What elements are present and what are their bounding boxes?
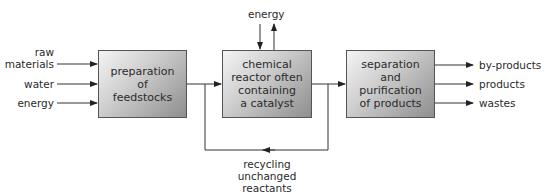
label-energy-input: energy bbox=[17, 97, 54, 109]
label-water: water bbox=[24, 78, 54, 90]
box-preparation-of-feedstocks: preparation of feedstocks bbox=[98, 50, 187, 118]
label-recycling: recycling unchanged reactants bbox=[213, 158, 321, 193]
label-wastes: wastes bbox=[479, 97, 516, 109]
label-by-products: by-products bbox=[479, 59, 541, 71]
box-separation-purification: separation and purification of products bbox=[346, 50, 435, 118]
box-label: preparation of feedstocks bbox=[110, 65, 174, 104]
box-label: chemical reactor often containing a cata… bbox=[231, 58, 302, 110]
label-raw-materials: raw materials bbox=[5, 46, 54, 70]
label-products: products bbox=[479, 78, 525, 90]
box-label: separation and purification of products bbox=[359, 58, 421, 110]
box-chemical-reactor: chemical reactor often containing a cata… bbox=[222, 50, 312, 118]
label-reactor-energy: energy bbox=[248, 8, 285, 20]
